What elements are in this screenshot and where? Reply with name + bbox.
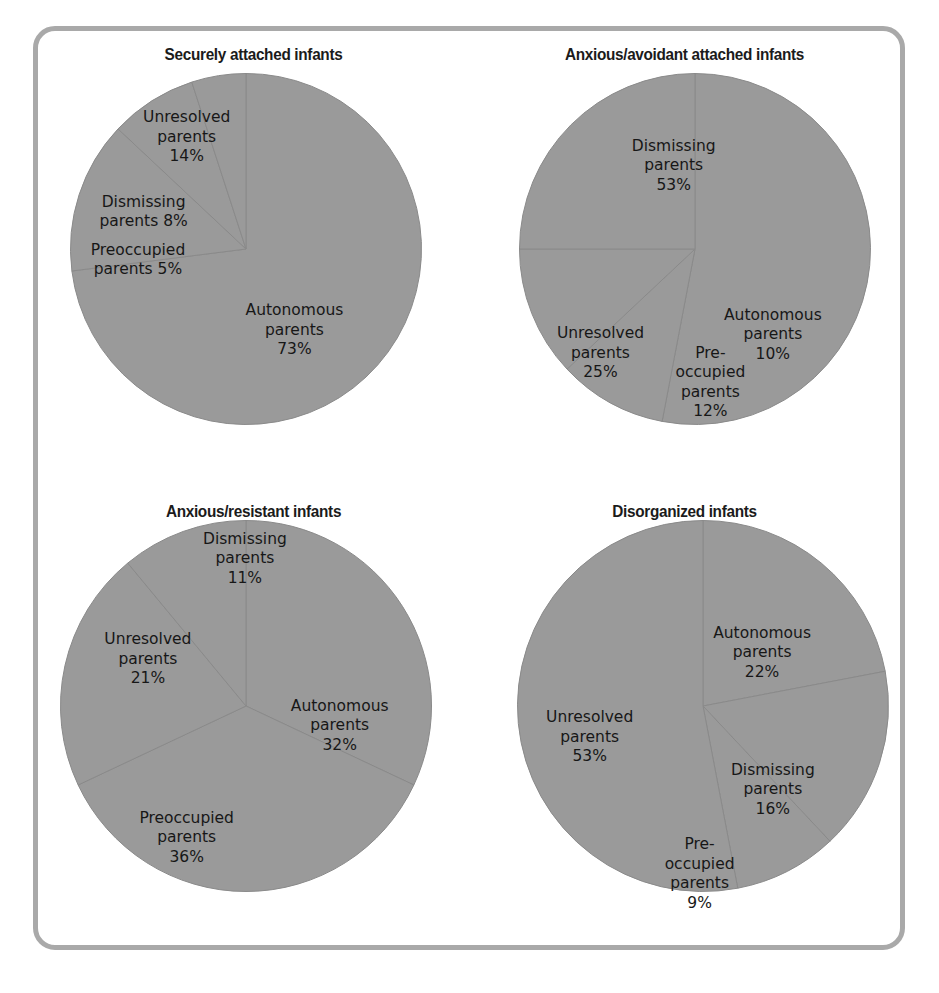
- pie-svg-0: [70, 73, 422, 425]
- pie-chart-anxious-resistant: Autonomous parents 32%Preoccupied parent…: [38, 488, 469, 945]
- pie-svg-1: [519, 73, 871, 425]
- pie-svg-2: [60, 520, 432, 892]
- pie-chart-grid: Securely attached infants Autonomous par…: [38, 31, 900, 945]
- pie-chart-anxious-avoidant: Dismissing parents 53%Autonomous parents…: [469, 31, 900, 488]
- pie-slice-unresolved-parents: [520, 74, 696, 250]
- chart-cell-securely-attached: Securely attached infants Autonomous par…: [38, 31, 469, 488]
- chart-cell-disorganized: Disorganized infants Autonomous parents …: [469, 488, 900, 945]
- figure-frame: Securely attached infants Autonomous par…: [33, 26, 905, 950]
- pie-svg-3: [517, 520, 889, 892]
- chart-cell-anxious-resistant: Anxious/resistant infants Autonomous par…: [38, 488, 469, 945]
- chart-cell-anxious-avoidant: Anxious/avoidant attached infants Dismis…: [469, 31, 900, 488]
- pie-chart-disorganized: Autonomous parents 22%Dismissing parents…: [469, 488, 900, 945]
- pie-chart-securely-attached: Autonomous parents 73%Unresolved parents…: [38, 31, 469, 488]
